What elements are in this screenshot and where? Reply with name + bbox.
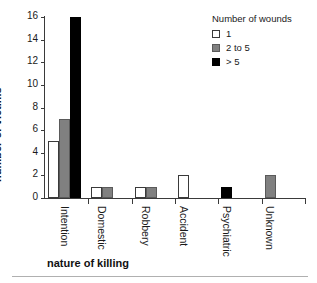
x-category-label-text: Unknown [264, 206, 275, 250]
x-category-label-text: Accident [178, 206, 189, 246]
y-tick-label: 8 [32, 101, 38, 112]
y-axis-title: number of victims [4, 72, 18, 182]
x-category-label-text: Robbery [140, 206, 151, 246]
bar [59, 119, 70, 198]
y-tick-label: 6 [32, 123, 38, 134]
legend-item-label: > 5 [226, 56, 239, 67]
x-tick-mark [175, 199, 176, 204]
legend-swatch-icon [212, 30, 220, 38]
y-tick-label: 4 [32, 146, 38, 157]
bar [265, 175, 276, 198]
y-tick-label: 2 [32, 168, 38, 179]
legend-item[interactable]: 1 [212, 27, 292, 40]
x-tick-mark [218, 199, 219, 204]
legend-item-label: 1 [226, 28, 231, 39]
legend-item-label: 2 to 5 [226, 42, 250, 53]
bar [48, 141, 59, 198]
x-category-label-text: Domestic [96, 206, 107, 250]
y-tick-label: 14 [27, 33, 38, 44]
footer-divider [12, 276, 308, 277]
legend-item[interactable]: 2 to 5 [212, 41, 292, 54]
bar [135, 187, 146, 198]
x-tick-mark [305, 199, 306, 204]
x-category-label-text: Psychiatric [221, 206, 232, 257]
legend: Number of wounds 12 to 5> 5 [212, 13, 292, 69]
y-tick-label: 12 [27, 55, 38, 66]
y-tick-label: 0 [32, 191, 38, 202]
legend-entries: 12 to 5> 5 [212, 27, 292, 68]
y-tick-label: 10 [27, 78, 38, 89]
y-tick-mark [41, 198, 45, 199]
x-tick-mark [132, 199, 133, 204]
bar [221, 187, 232, 198]
bar [70, 17, 81, 198]
y-tick-label: 16 [27, 10, 38, 21]
y-axis-title-text: number of victims [0, 87, 4, 182]
bar [178, 175, 189, 198]
bar [91, 187, 102, 198]
x-axis-title: nature of killing [47, 257, 129, 270]
x-category-label-text: Intention [59, 206, 70, 246]
bar-chart: number of victims 0246810121416 Intentio… [0, 0, 317, 283]
bar [102, 187, 113, 198]
x-tick-mark [88, 199, 89, 204]
legend-swatch-icon [212, 44, 220, 52]
bar [146, 187, 157, 198]
legend-title: Number of wounds [212, 13, 292, 24]
x-tick-mark [262, 199, 263, 204]
legend-item[interactable]: > 5 [212, 55, 292, 68]
legend-swatch-icon [212, 58, 220, 66]
